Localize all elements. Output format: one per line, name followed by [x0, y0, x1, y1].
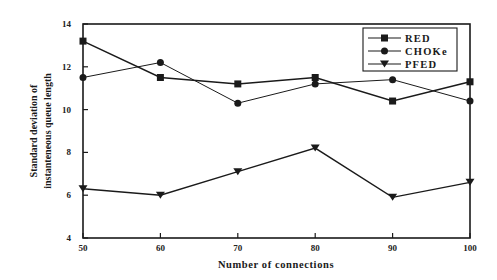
square-marker — [80, 38, 87, 45]
square-marker — [234, 80, 241, 87]
triangle-down-marker — [233, 168, 242, 175]
x-tick-label: 80 — [311, 243, 321, 253]
square-marker — [381, 35, 388, 42]
circle-marker — [467, 98, 474, 105]
circle-marker — [381, 48, 388, 55]
series-pfed — [79, 145, 475, 201]
y-tick-label: 14 — [62, 19, 72, 29]
x-axis-ticks: 5060708090100 — [79, 233, 478, 253]
square-marker — [157, 74, 164, 81]
y-tick-label: 8 — [67, 147, 72, 157]
square-marker — [312, 74, 319, 81]
line-chart: 468101214 5060708090100 Number of connec… — [0, 0, 497, 280]
circle-marker — [312, 80, 319, 87]
x-tick-label: 70 — [233, 243, 243, 253]
circle-marker — [157, 59, 164, 66]
legend-label: RED — [405, 33, 431, 44]
square-marker — [467, 78, 474, 85]
circle-marker — [389, 76, 396, 83]
y-axis-title-line1: Standard deviation of — [28, 84, 39, 177]
y-tick-label: 6 — [67, 190, 72, 200]
y-tick-label: 10 — [62, 105, 72, 115]
circle-marker — [80, 74, 87, 81]
x-tick-label: 60 — [156, 243, 166, 253]
y-axis-title-line2: instanteneous queue length — [42, 73, 53, 189]
x-tick-label: 50 — [79, 243, 89, 253]
x-tick-label: 90 — [388, 243, 398, 253]
square-marker — [389, 98, 396, 105]
y-tick-label: 4 — [67, 233, 72, 243]
y-tick-label: 12 — [62, 62, 72, 72]
legend-label: CHOKe — [405, 46, 448, 57]
x-tick-label: 100 — [463, 243, 477, 253]
circle-marker — [234, 100, 241, 107]
x-axis-title: Number of connections — [218, 259, 334, 270]
legend: REDCHOKePFED — [363, 28, 457, 71]
legend-label: PFED — [405, 59, 437, 70]
y-axis-ticks: 468101214 — [62, 19, 88, 243]
series-line — [83, 148, 470, 197]
